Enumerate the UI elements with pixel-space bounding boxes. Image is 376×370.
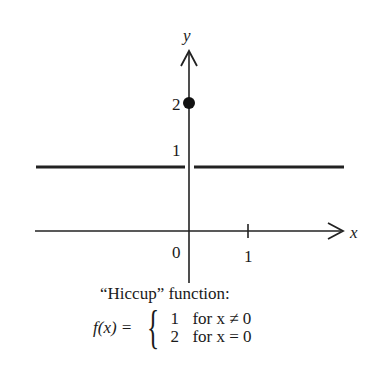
hiccup-point — [183, 97, 195, 109]
case-2-value: 2 — [170, 328, 192, 346]
case-2-condition: for x = 0 — [192, 328, 251, 346]
y-axis-label: y — [183, 27, 191, 44]
x-tick-label-1: 1 — [244, 248, 253, 265]
formula-case-1: 1for x ≠ 0 — [170, 310, 251, 328]
y-tick-label-1: 1 — [172, 142, 181, 159]
brace-icon: { — [147, 305, 159, 351]
x-axis-label: x — [350, 224, 358, 241]
formula-cases: 1for x ≠ 0 2for x = 0 — [170, 310, 251, 346]
case-1-value: 1 — [170, 310, 192, 328]
origin-label: 0 — [172, 244, 181, 261]
formula-lhs: f(x) = — [93, 318, 132, 338]
y-tick-label-2: 2 — [172, 96, 181, 113]
formula-case-2: 2for x = 0 — [170, 328, 251, 346]
piecewise-formula: f(x) = { 1for x ≠ 0 2for x = 0 — [93, 305, 252, 351]
chart-caption: “Hiccup” function: — [100, 285, 230, 302]
case-1-condition: for x ≠ 0 — [192, 310, 251, 328]
